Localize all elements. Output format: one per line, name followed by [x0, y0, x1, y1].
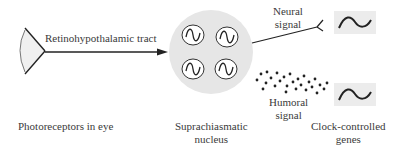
gene-rhythm-icon — [334, 11, 376, 34]
caption-scn: Suprachiasmatic nucleus — [175, 120, 248, 146]
caption-genes: Clock-controlled genes — [311, 120, 386, 146]
humoral-signal-line2: signal — [269, 109, 308, 122]
neural-signal-line1: Neural — [273, 5, 303, 18]
tract-label: Retinohypothalamic tract — [45, 32, 157, 45]
gene-rhythm-icon — [334, 83, 376, 106]
eye-icon — [20, 28, 45, 74]
tract-arrow-icon — [45, 49, 168, 56]
neuron-cell-icon — [216, 27, 238, 47]
caption-scn-line1: Suprachiasmatic — [175, 120, 248, 133]
neuron-cell-icon — [215, 59, 237, 79]
neural-signal-line2: signal — [273, 18, 303, 31]
caption-eye: Photoreceptors in eye — [18, 120, 113, 133]
humoral-signal-line1: Humoral — [269, 96, 308, 109]
humoral-signal-label: Humoral signal — [269, 96, 308, 122]
neuron-cell-icon — [182, 25, 204, 45]
neuron-cell-icon — [182, 59, 204, 79]
neural-signal-label: Neural signal — [273, 5, 303, 31]
caption-scn-line2: nucleus — [175, 133, 248, 146]
caption-genes-line1: Clock-controlled — [311, 120, 386, 133]
humoral-dots-icon — [256, 71, 329, 95]
scn-circle-icon — [169, 10, 253, 94]
caption-genes-line2: genes — [311, 133, 386, 146]
